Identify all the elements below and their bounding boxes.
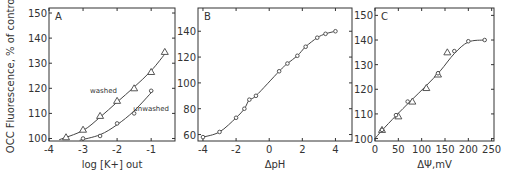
- triangle-marker: [444, 49, 451, 55]
- circle-marker: [324, 32, 328, 36]
- y-tick-label: 100: [28, 133, 47, 144]
- circle-marker: [286, 62, 290, 66]
- x-tick-label: 0: [266, 144, 272, 155]
- y-tick-label: 110: [354, 109, 373, 120]
- y-tick-label: 130: [28, 58, 47, 69]
- x-tick-label: 100: [412, 144, 431, 155]
- x-axis-label: log [K+] out: [82, 159, 143, 170]
- y-tick-label: 110: [28, 108, 47, 119]
- circle-marker: [467, 39, 471, 43]
- circle-marker: [115, 122, 119, 126]
- circle-marker: [406, 100, 410, 104]
- x-tick-label: 50: [392, 144, 405, 155]
- annotation-unwashed: unwashed: [133, 105, 169, 113]
- x-tick-label: 150: [435, 144, 454, 155]
- x-axis-label: ΔΨ,mV: [417, 159, 452, 170]
- figure: 100110120130140150-4-3-2-1Alog [K+] outO…: [0, 0, 518, 176]
- circle-marker: [254, 94, 258, 98]
- panel-b: 6080100120140-4-2024BΔpH: [177, 8, 352, 170]
- x-tick-label: 200: [459, 144, 478, 155]
- fit-curve: [375, 40, 485, 139]
- circle-marker: [98, 134, 102, 138]
- plot-frame: [375, 8, 494, 141]
- fit-curve-washed: [59, 52, 166, 140]
- y-tick-label: 150: [354, 10, 373, 21]
- y-tick-label: 120: [177, 52, 196, 63]
- y-tick-label: 100: [354, 134, 373, 145]
- plot-frame: [198, 8, 352, 141]
- triangle-marker: [161, 48, 168, 54]
- y-tick-label: 140: [354, 35, 373, 46]
- plot-frame: [49, 8, 175, 141]
- y-tick-label: 80: [183, 104, 196, 115]
- circle-marker: [380, 128, 384, 132]
- x-axis-label: ΔpH: [265, 159, 286, 170]
- circle-marker: [483, 38, 487, 42]
- annotation-washed: washed: [90, 87, 117, 95]
- circle-marker: [149, 89, 153, 93]
- circle-marker: [453, 49, 457, 53]
- circle-marker: [218, 130, 222, 134]
- panel-c: 100110120130140150050100150200250CΔΨ,mV: [354, 8, 501, 170]
- circle-marker: [81, 137, 85, 141]
- y-tick-label: 60: [183, 130, 196, 141]
- x-tick-label: -4: [44, 144, 54, 155]
- circle-marker: [436, 71, 440, 75]
- x-tick-label: -2: [112, 144, 122, 155]
- y-tick-label: 100: [177, 78, 196, 89]
- panel-letter: B: [204, 11, 211, 22]
- y-tick-label: 150: [28, 8, 47, 19]
- y-tick-label: 120: [354, 84, 373, 95]
- x-tick-label: 4: [332, 144, 338, 155]
- circle-marker: [243, 107, 247, 111]
- x-tick-label: 0: [372, 144, 378, 155]
- triangle-marker: [131, 85, 138, 91]
- circle-marker: [394, 113, 398, 117]
- circle-marker: [234, 116, 238, 120]
- circle-marker: [334, 29, 338, 33]
- circle-marker: [304, 45, 308, 49]
- y-tick-label: 120: [28, 83, 47, 94]
- x-tick-label: -3: [78, 144, 88, 155]
- circle-marker: [248, 98, 252, 102]
- y-tick-label: 140: [177, 26, 196, 37]
- panel-a: 100110120130140150-4-3-2-1Alog [K+] outO…: [5, 0, 175, 170]
- x-tick-label: -2: [231, 144, 241, 155]
- triangle-marker: [148, 68, 155, 74]
- circle-marker: [201, 135, 205, 139]
- y-tick-label: 130: [354, 60, 373, 71]
- circle-marker: [315, 36, 319, 40]
- circle-marker: [277, 69, 281, 73]
- fit-curve-data: [203, 31, 335, 137]
- x-tick-label: 2: [299, 144, 305, 155]
- panel-letter: C: [381, 11, 388, 22]
- x-tick-label: -4: [198, 144, 208, 155]
- x-tick-label: -1: [146, 144, 156, 155]
- y-axis-label: OCC Fluorescence, % of control: [5, 0, 16, 153]
- panel-letter: A: [55, 11, 62, 22]
- y-tick-label: 140: [28, 33, 47, 44]
- x-tick-label: 250: [482, 144, 501, 155]
- circle-marker: [296, 54, 300, 58]
